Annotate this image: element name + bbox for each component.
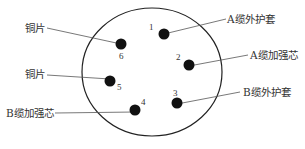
leader-line	[47, 75, 110, 79]
pin-dot	[105, 76, 116, 87]
pin-number: 3	[173, 88, 178, 98]
pin-dot	[172, 98, 183, 109]
callout-label: B缆加强芯	[6, 107, 54, 119]
pins	[105, 29, 195, 116]
pin-dot	[116, 39, 127, 50]
pin-number: 2	[176, 52, 181, 62]
pin-number: 4	[141, 97, 146, 107]
leader-line	[189, 55, 248, 66]
leader-line	[47, 28, 121, 44]
callout-label: 铜片	[25, 22, 45, 34]
callout-label: A缆加强芯	[250, 49, 298, 61]
leader-line	[177, 92, 240, 104]
pin-number: 6	[119, 51, 124, 61]
pin-number: 5	[117, 82, 122, 92]
connector-diagram: 铜片铜片B缆加强芯A缆外护套A缆加强芯B缆外护套 123456	[0, 0, 305, 149]
pin-dot	[159, 29, 170, 40]
callout-label: B缆外护套	[243, 86, 291, 98]
callout-label: A缆外护套	[227, 13, 275, 25]
pin-dot	[184, 60, 195, 71]
callout-label: 铜片	[25, 68, 45, 80]
pin-dot	[130, 105, 141, 116]
leader-lines	[47, 19, 248, 113]
leader-line	[55, 112, 135, 113]
pin-number: 1	[149, 22, 154, 32]
